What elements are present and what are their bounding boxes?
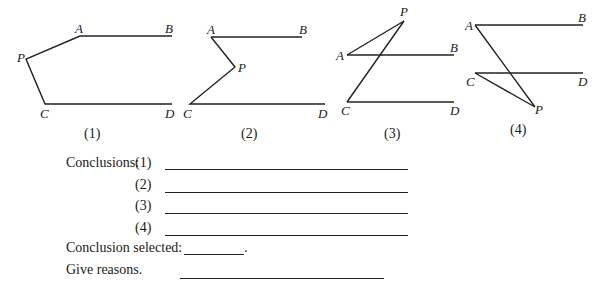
fig2-label-c: C — [183, 106, 192, 121]
selected-period: . — [244, 240, 248, 256]
geometry-figures: A B P C D (1) A B P C D (2) P A B C D (3… — [0, 0, 603, 150]
fig3-label-c: C — [341, 103, 350, 118]
figure-1-path-bapcd — [26, 36, 172, 104]
conclusions-label: Conclusions: — [66, 155, 139, 171]
fig1-caption: (1) — [84, 126, 101, 142]
selected-label: Conclusion selected: — [66, 240, 182, 256]
fig1-label-a: A — [74, 21, 83, 36]
selected-blank[interactable] — [184, 254, 244, 255]
fig3-caption: (3) — [384, 126, 401, 142]
conclusion-2-number: (2) — [135, 177, 151, 193]
conclusion-4-number: (4) — [135, 220, 151, 236]
conclusion-3-number: (3) — [135, 198, 151, 214]
fig3-label-d: D — [449, 103, 460, 118]
fig4-caption: (4) — [510, 122, 527, 138]
fig2-label-a: A — [206, 22, 215, 37]
fig1-label-c: C — [40, 106, 49, 121]
fig3-label-b: B — [450, 40, 458, 55]
fig2-label-b: B — [299, 22, 307, 37]
fig1-label-b: B — [165, 21, 173, 36]
conclusion-1-blank[interactable] — [165, 169, 408, 170]
fig3-label-p: P — [399, 4, 408, 19]
conclusion-1-number: (1) — [135, 155, 151, 171]
reasons-label: Give reasons. — [66, 262, 142, 278]
fig2-label-d: D — [317, 106, 328, 121]
fig2-label-p: P — [237, 60, 246, 75]
fig4-label-b: B — [578, 10, 586, 25]
fig1-label-d: D — [164, 106, 175, 121]
fig4-label-c: C — [466, 74, 475, 89]
fig4-label-p: P — [534, 102, 543, 117]
conclusion-2-blank[interactable] — [165, 192, 408, 193]
fig3-label-a: A — [335, 48, 344, 63]
conclusion-4-blank[interactable] — [165, 235, 408, 236]
fig2-caption: (2) — [241, 126, 258, 142]
reasons-blank[interactable] — [180, 278, 384, 279]
fig4-label-a: A — [464, 18, 473, 33]
fig1-label-p: P — [16, 50, 25, 65]
fig4-label-d: D — [577, 74, 588, 89]
conclusion-3-blank[interactable] — [165, 213, 408, 214]
